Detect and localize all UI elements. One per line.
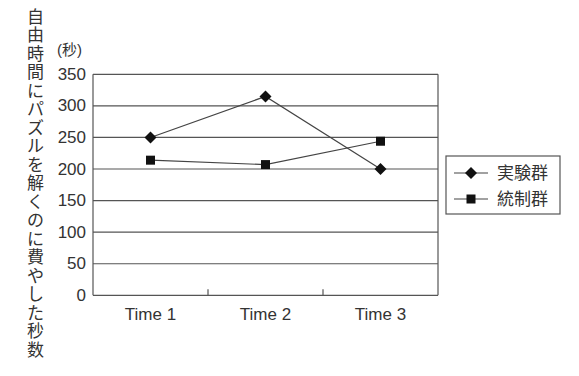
y-axis-title-char: に	[27, 230, 44, 249]
x-tick-label: Time 3	[355, 305, 406, 324]
y-axis-title-char: し	[27, 285, 44, 304]
y-axis-title-char: や	[27, 267, 44, 286]
legend-label: 統制群	[497, 190, 548, 209]
legend: 実験群統制群	[446, 156, 560, 214]
y-axis-title-char: の	[27, 211, 44, 230]
y-axis-title-char: 間	[27, 63, 44, 82]
y-axis-title-char: 秒	[27, 322, 44, 341]
axes	[93, 74, 438, 295]
y-tick-label: 200	[58, 160, 86, 179]
data-series	[145, 90, 387, 175]
y-axis-tick-labels: 050100150200250300350	[58, 65, 86, 305]
line-chart: 自由時間にパズルを解くのに費やした秒数 (秒) 0501001502002503…	[0, 0, 579, 376]
y-tick-label: 0	[77, 286, 86, 305]
y-axis-title-char: ズ	[27, 119, 44, 138]
y-axis-title-char: 費	[27, 248, 44, 267]
y-axis-title-char: く	[27, 193, 44, 212]
legend-label: 実験群	[497, 164, 548, 183]
y-tick-label: 250	[58, 128, 86, 147]
y-axis-title-char: 数	[27, 341, 44, 360]
series-control	[146, 137, 385, 169]
x-axis-tick-labels: Time 1Time 2Time 3	[125, 305, 406, 324]
y-axis-title-char: た	[27, 304, 44, 323]
square-marker-icon	[146, 156, 155, 165]
y-axis-title-char: に	[27, 82, 44, 101]
square-marker-icon	[376, 137, 385, 146]
y-axis-unit-label: (秒)	[57, 41, 82, 58]
y-axis-title-char: パ	[27, 100, 44, 119]
y-tick-label: 100	[58, 223, 86, 242]
legend-square-icon	[467, 195, 476, 204]
y-tick-label: 300	[58, 96, 86, 115]
x-tick-label: Time 2	[240, 305, 291, 324]
y-tick-label: 50	[67, 254, 86, 273]
y-axis-title-char: ル	[27, 137, 44, 156]
chart-canvas: 自由時間にパズルを解くのに費やした秒数 (秒) 0501001502002503…	[0, 0, 579, 376]
diamond-marker-icon	[375, 163, 387, 175]
diamond-marker-icon	[145, 131, 157, 143]
square-marker-icon	[261, 160, 270, 169]
series-line	[151, 96, 381, 169]
y-axis-title-char: 解	[27, 174, 44, 193]
y-axis-title-char: を	[27, 156, 44, 175]
x-tick-label: Time 1	[125, 305, 176, 324]
y-axis-title-char: 時	[27, 45, 44, 64]
diamond-marker-icon	[260, 90, 272, 102]
y-axis-title-char: 自	[27, 8, 44, 27]
y-axis-title-char: 由	[27, 26, 44, 45]
y-axis-title: 自由時間にパズルを解くのに費やした秒数	[27, 8, 44, 360]
y-tick-label: 350	[58, 65, 86, 84]
y-tick-label: 150	[58, 191, 86, 210]
